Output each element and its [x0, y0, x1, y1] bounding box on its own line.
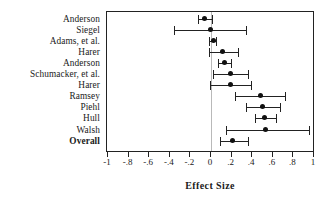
x-axis-tick-label: -.6 [143, 157, 153, 168]
effect-size-marker [228, 82, 233, 87]
effect-size-marker [260, 104, 265, 109]
forest-row [106, 36, 314, 47]
forest-row [106, 102, 314, 113]
forest-plot: AndersonSiegelAdams, et al.HarerAnderson… [0, 0, 331, 199]
study-label: Hull [83, 113, 100, 124]
ci-lower-cap [235, 92, 236, 101]
ci-lower-cap [198, 15, 199, 24]
ci-lower-cap [218, 59, 219, 68]
effect-size-marker [258, 93, 263, 98]
effect-size-marker [202, 16, 207, 21]
effect-size-marker [220, 49, 225, 54]
forest-row [106, 25, 314, 36]
study-label: Anderson [63, 58, 100, 69]
ci-lower-cap [209, 48, 210, 57]
forest-row [106, 80, 314, 91]
effect-size-marker [228, 71, 233, 76]
forest-row [106, 69, 314, 80]
forest-row [106, 113, 314, 124]
ci-lower-cap [210, 81, 211, 90]
ci-upper-cap [248, 70, 249, 79]
x-axis-tick-label: .4 [248, 157, 255, 168]
ci-lower-cap [220, 137, 221, 146]
x-axis-title: Effect Size [106, 180, 314, 191]
effect-size-marker [211, 38, 216, 43]
x-axis-tick-label: 1 [311, 157, 316, 168]
effect-size-marker [263, 127, 268, 132]
x-axis-tick-label: -1 [103, 157, 111, 168]
effect-size-marker [230, 138, 235, 143]
ci-upper-cap [216, 37, 217, 46]
study-label: Anderson [63, 14, 100, 25]
ci-upper-cap [309, 126, 310, 135]
series-layer [106, 11, 314, 152]
ci-upper-cap [280, 103, 281, 112]
x-axis-tick-label: -.2 [185, 157, 195, 168]
ci-lower-cap [174, 26, 175, 35]
study-label: Harer [78, 47, 100, 58]
forest-row [106, 58, 314, 69]
study-label: Siegel [76, 25, 100, 36]
forest-row [106, 14, 314, 25]
effect-size-marker [222, 60, 227, 65]
ci-upper-cap [246, 26, 247, 35]
x-axis-tick-label: .8 [289, 157, 296, 168]
forest-row [106, 125, 314, 136]
study-label: Harer [78, 80, 100, 91]
ci-lower-cap [226, 126, 227, 135]
x-axis-tick-label: .6 [268, 157, 275, 168]
x-axis-tick-label: -.8 [123, 157, 133, 168]
forest-row [106, 47, 314, 58]
ci-upper-cap [238, 48, 239, 57]
forest-row [106, 136, 314, 147]
ci-lower-cap [213, 70, 214, 79]
x-axis-tick-label: .2 [227, 157, 234, 168]
study-label: Walsh [76, 125, 100, 136]
effect-size-marker [262, 115, 267, 120]
x-axis: -1-.8-.6-.4-.20.2.4.6.81 [106, 152, 314, 164]
ci-upper-cap [276, 114, 277, 123]
x-axis-tick-label: -.4 [164, 157, 174, 168]
ci-lower-cap [255, 114, 256, 123]
study-label: Ramsey [69, 91, 100, 102]
study-label: Adams, et al. [50, 36, 100, 47]
ci-lower-cap [246, 103, 247, 112]
ci-upper-cap [251, 81, 252, 90]
study-label-column: AndersonSiegelAdams, et al.HarerAnderson… [0, 14, 103, 146]
forest-row [106, 91, 314, 102]
study-label: Piehl [80, 102, 100, 113]
ci-upper-cap [285, 92, 286, 101]
ci-upper-cap [231, 59, 232, 68]
x-axis-tick-label: 0 [208, 157, 213, 168]
ci-upper-cap [212, 15, 213, 24]
study-label: Overall [69, 136, 100, 147]
study-label: Schumacker, et al. [30, 69, 100, 80]
ci-upper-cap [248, 137, 249, 146]
effect-size-marker [208, 27, 213, 32]
ci-lower-cap [209, 37, 210, 46]
